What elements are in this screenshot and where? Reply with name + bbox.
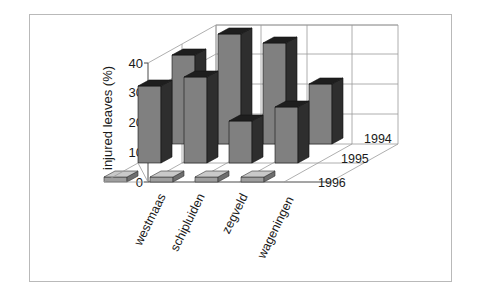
category-label-zegveld: zegveld (219, 191, 250, 236)
bar-1996-wageningen (241, 171, 275, 182)
y-tick-0: 0 (136, 175, 143, 190)
bar-1996-zegveld (195, 171, 229, 182)
year-label-1996: 1996 (318, 176, 346, 190)
x-axis-category-labels: westmaas schipluiden zegveld wageningen (131, 191, 297, 262)
y-tick-40: 40 (129, 56, 143, 71)
bar-1995-schipluiden (184, 71, 218, 163)
bar-1995-westmaas (138, 80, 172, 163)
bar-1995-zegveld (229, 115, 263, 163)
bar-chart-3d: 0 10 20 30 40 injured leaves (%) (0, 0, 480, 299)
year-label-1994: 1994 (364, 132, 392, 146)
category-label-wageningen: wageningen (254, 194, 297, 262)
category-label-westmaas: westmaas (131, 191, 169, 249)
bar-group-1996 (104, 171, 275, 182)
bar-1996-schipluiden (150, 171, 184, 182)
category-label-schipluiden: schipluiden (168, 191, 208, 253)
year-label-1995: 1995 (341, 152, 369, 166)
chart-figure: 0 10 20 30 40 injured leaves (%) (0, 0, 480, 299)
y-axis-title: injured leaves (%) (100, 66, 115, 170)
bar-1994-wageningen (309, 78, 343, 144)
bar-1995-wageningen (275, 101, 309, 163)
